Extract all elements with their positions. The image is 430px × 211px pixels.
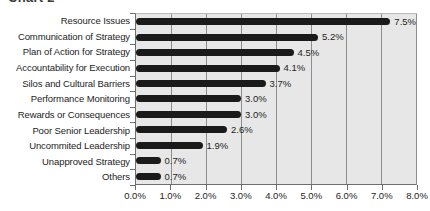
bar-value-label: 3.0% (245, 94, 267, 104)
category-label: Silos and Cultural Barriers (22, 79, 130, 89)
category-label: Unapproved Strategy (42, 157, 130, 167)
bar-row: 4.1% (136, 60, 416, 75)
bar-value-label: 1.9% (207, 141, 229, 151)
category-label: Poor Senior Leadership (32, 126, 130, 136)
bar-row: 3.7% (136, 76, 416, 91)
bar-value-label: 5.2% (322, 32, 344, 42)
bar (136, 80, 266, 87)
category-row: Rewards or Consequences (0, 107, 134, 123)
bar (136, 49, 294, 56)
category-label: Accountability for Execution (16, 63, 130, 73)
gridline (416, 14, 417, 184)
x-tick-label: 4.0% (265, 191, 287, 201)
bar-value-label: 0.7% (165, 156, 187, 166)
x-axis-labels: 0.0%1.0%2.0%3.0%4.0%5.0%6.0%7.0%8.0% (135, 191, 417, 205)
category-axis: Resource IssuesCommunication of Strategy… (0, 13, 134, 185)
bar (136, 111, 241, 118)
bar (136, 18, 390, 25)
bar-value-label: 2.6% (231, 125, 253, 135)
category-row: Unapproved Strategy (0, 154, 134, 170)
category-label: Performance Monitoring (31, 94, 130, 104)
bar-chart-figure: Chart 2 Resource IssuesCommunication of … (0, 0, 430, 211)
category-row: Silos and Cultural Barriers (0, 76, 134, 92)
category-row: Poor Senior Leadership (0, 122, 134, 138)
x-tick-label: 2.0% (195, 191, 217, 201)
x-tick-label: 0.0% (124, 191, 146, 201)
x-tick-label: 5.0% (300, 191, 322, 201)
bar-row: 5.2% (136, 29, 416, 44)
bar-value-label: 0.7% (165, 172, 187, 182)
x-tick-label: 8.0% (406, 191, 428, 201)
category-label: Rewards or Consequences (18, 110, 130, 120)
bar (136, 142, 203, 149)
category-row: Uncommited Leadership (0, 138, 134, 154)
bar-row: 0.7% (136, 153, 416, 168)
bar-row: 3.0% (136, 91, 416, 106)
category-row: Performance Monitoring (0, 91, 134, 107)
bar (136, 34, 318, 41)
category-label: Uncommited Leadership (29, 141, 130, 151)
plot-area: 7.5%5.2%4.5%4.1%3.7%3.0%3.0%2.6%1.9%0.7%… (135, 13, 417, 185)
bar-value-label: 4.5% (298, 48, 320, 58)
category-label: Communication of Strategy (18, 32, 130, 42)
bar-value-label: 7.5% (394, 17, 416, 27)
category-row: Accountability for Execution (0, 60, 134, 76)
category-row: Others (0, 169, 134, 185)
bar (136, 126, 227, 133)
bar-row: 2.6% (136, 122, 416, 137)
bar (136, 157, 161, 164)
category-label: Plan of Action for Strategy (23, 47, 130, 57)
x-tick-label: 7.0% (371, 191, 393, 201)
category-row: Communication of Strategy (0, 29, 134, 45)
bar-row: 0.7% (136, 169, 416, 184)
chart-title: Chart 2 (8, 0, 55, 8)
bar (136, 173, 161, 180)
bar-row: 3.0% (136, 107, 416, 122)
category-row: Resource Issues (0, 13, 134, 29)
bar (136, 65, 280, 72)
x-tick-label: 1.0% (159, 191, 181, 201)
bar-value-label: 4.1% (284, 63, 306, 73)
bar (136, 95, 241, 102)
bar-value-label: 3.7% (270, 79, 292, 89)
category-label: Resource Issues (61, 16, 130, 26)
category-label: Others (102, 172, 130, 182)
x-tick-label: 6.0% (336, 191, 358, 201)
bar-series: 7.5%5.2%4.5%4.1%3.7%3.0%3.0%2.6%1.9%0.7%… (136, 14, 416, 184)
bar-row: 4.5% (136, 45, 416, 60)
category-row: Plan of Action for Strategy (0, 44, 134, 60)
bar-row: 1.9% (136, 138, 416, 153)
bar-row: 7.5% (136, 14, 416, 29)
bar-value-label: 3.0% (245, 110, 267, 120)
x-tick-label: 3.0% (230, 191, 252, 201)
